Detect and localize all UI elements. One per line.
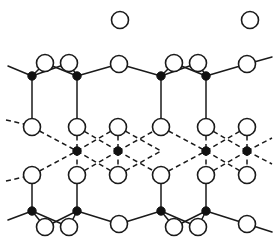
atom-open-um-3 — [110, 119, 127, 136]
atom-open-lm-3 — [110, 167, 127, 184]
atom-group-top-open — [37, 55, 256, 73]
bond-group-middle-dashed — [6, 120, 272, 181]
atom-group-bottom-filled — [28, 207, 210, 215]
atom-filled-b-m1 — [28, 207, 36, 215]
atom-open-um-2 — [69, 119, 86, 136]
atom-open-t-o1 — [37, 55, 54, 72]
atom-open-lm-2 — [69, 167, 86, 184]
atom-open-b-o1 — [37, 219, 54, 236]
atom-open-lm-1 — [24, 167, 41, 184]
atom-isolated-open-iso-2 — [242, 12, 259, 29]
atom-open-b-o5 — [190, 219, 207, 236]
atom-filled-t-m1 — [28, 72, 36, 80]
atom-open-b-o4 — [166, 219, 183, 236]
atom-group-middle-filled — [73, 147, 251, 155]
atom-filled-m-m3 — [202, 147, 210, 155]
atom-open-b-o2 — [61, 219, 78, 236]
atom-filled-t-m3 — [157, 72, 165, 80]
bond-middle-dashed-19 — [6, 177, 24, 181]
atom-filled-b-m4 — [202, 207, 210, 215]
atom-open-um-6 — [239, 119, 256, 136]
atom-open-b-o6 — [239, 216, 256, 233]
atom-open-um-5 — [198, 119, 215, 136]
atom-open-t-o3 — [111, 56, 128, 73]
atom-open-lm-5 — [198, 167, 215, 184]
atom-open-um-4 — [153, 119, 170, 136]
atom-filled-m-m2 — [114, 147, 122, 155]
atom-isolated-open-iso-1 — [112, 12, 129, 29]
atom-filled-b-m2 — [73, 207, 81, 215]
atom-open-t-o5 — [190, 55, 207, 72]
atom-group-upper-mid-open — [24, 119, 256, 136]
lattice-figure — [0, 0, 276, 251]
atom-filled-b-m3 — [157, 207, 165, 215]
atom-open-t-o6 — [239, 56, 256, 73]
atom-open-b-o3 — [111, 216, 128, 233]
bond-group-top-vertical — [32, 76, 206, 119]
atom-filled-m-m1 — [73, 147, 81, 155]
bond-group-bottom-vertical — [32, 183, 206, 211]
atom-filled-t-m4 — [202, 72, 210, 80]
atom-open-t-o4 — [166, 55, 183, 72]
atom-group-lower-mid-open — [24, 167, 256, 184]
atom-open-t-o2 — [61, 55, 78, 72]
atom-group-isolated-open — [112, 12, 259, 29]
atom-filled-m-m4 — [243, 147, 251, 155]
bond-middle-dashed-0 — [6, 120, 24, 124]
atom-open-um-1 — [24, 119, 41, 136]
lattice-diagram-svg — [0, 0, 276, 251]
atom-group-bottom-open — [37, 216, 256, 236]
atom-filled-t-m2 — [73, 72, 81, 80]
atom-open-lm-4 — [153, 167, 170, 184]
atom-open-lm-6 — [239, 167, 256, 184]
